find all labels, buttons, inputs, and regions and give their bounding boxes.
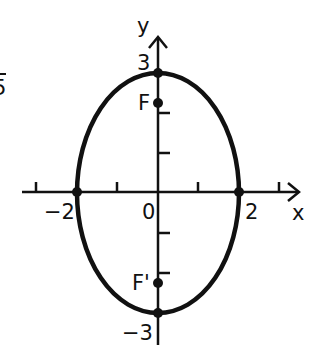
tick-label-x-neg: −2 (44, 200, 75, 224)
y-axis-label: y (137, 14, 149, 38)
focus-label-lower: F' (132, 271, 150, 295)
ellipse-diagram: y x 0 3 −3 −2 2 F F' 5 (0, 0, 330, 351)
origin-label: 0 (142, 200, 155, 224)
partial-left-text: 5 (0, 76, 6, 100)
tick-label-y-pos: 3 (137, 51, 150, 75)
tick-label-x-pos: 2 (245, 200, 258, 224)
focus-point-upper (153, 98, 163, 108)
focus-label-upper: F (138, 91, 150, 115)
x-axis-label: x (292, 201, 304, 225)
focus-point-lower (153, 278, 163, 288)
tick-label-y-neg: −3 (122, 321, 153, 345)
